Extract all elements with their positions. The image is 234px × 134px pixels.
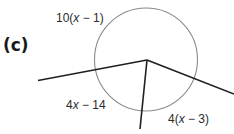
- lower-chord-line: [140, 60, 147, 129]
- left-secant-line: [38, 60, 147, 81]
- right-secant-line: [147, 60, 234, 94]
- arc-label-top: 10(x − 1): [56, 11, 104, 25]
- circle-angle-diagram: (c) 10(x − 1) 4x − 14 4(x − 3): [0, 0, 234, 134]
- arc-label-left: 4x − 14: [66, 98, 106, 112]
- part-label: (c): [3, 35, 29, 55]
- arc-label-bottom-right: 4(x − 3): [168, 112, 209, 126]
